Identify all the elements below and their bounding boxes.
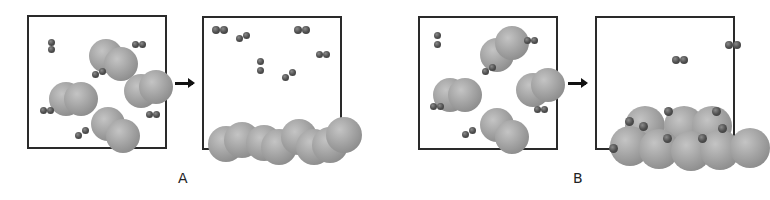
small-atom bbox=[48, 39, 55, 46]
large-atom bbox=[495, 26, 529, 60]
small-atom bbox=[469, 127, 476, 134]
large-atom bbox=[64, 82, 98, 116]
small-atom bbox=[698, 134, 707, 143]
small-atom bbox=[92, 71, 99, 78]
small-atom bbox=[48, 46, 55, 53]
large-atom bbox=[495, 120, 529, 154]
large-atom bbox=[326, 117, 362, 153]
small-atom bbox=[434, 32, 441, 39]
large-atom bbox=[730, 128, 770, 168]
small-atom bbox=[132, 41, 139, 48]
panel-A-before bbox=[27, 15, 167, 149]
small-atom bbox=[534, 106, 541, 113]
small-atom bbox=[434, 41, 441, 48]
large-atom bbox=[106, 119, 140, 153]
small-atom bbox=[289, 69, 296, 76]
small-atom bbox=[663, 134, 672, 143]
small-atom bbox=[733, 41, 741, 49]
small-atom bbox=[680, 56, 688, 64]
panel-B-after bbox=[595, 16, 735, 150]
small-atom bbox=[40, 107, 47, 114]
small-atom bbox=[212, 26, 220, 34]
small-atom bbox=[294, 26, 302, 34]
small-atom bbox=[541, 106, 548, 113]
small-atom bbox=[430, 103, 437, 110]
small-atom bbox=[139, 41, 146, 48]
panel-B-before bbox=[418, 16, 558, 150]
small-atom bbox=[489, 64, 496, 71]
small-atom bbox=[323, 51, 330, 58]
small-atom bbox=[482, 68, 489, 75]
small-atom bbox=[524, 37, 531, 44]
small-atom bbox=[257, 58, 264, 65]
small-atom bbox=[639, 122, 648, 131]
small-atom bbox=[531, 37, 538, 44]
small-atom bbox=[243, 32, 250, 39]
small-atom bbox=[99, 68, 106, 75]
scenario-label-B: B bbox=[573, 170, 583, 186]
small-atom bbox=[718, 124, 727, 133]
small-atom bbox=[664, 107, 673, 116]
small-atom bbox=[220, 26, 228, 34]
small-atom bbox=[609, 144, 618, 153]
small-atom bbox=[153, 111, 160, 118]
small-atom bbox=[625, 117, 634, 126]
small-atom bbox=[672, 56, 680, 64]
small-atom bbox=[725, 41, 733, 49]
reaction-arrow-icon bbox=[175, 82, 193, 85]
small-atom bbox=[712, 107, 721, 116]
small-atom bbox=[146, 111, 153, 118]
large-atom bbox=[448, 78, 482, 112]
small-atom bbox=[282, 74, 289, 81]
small-atom bbox=[257, 67, 264, 74]
large-atom bbox=[139, 70, 173, 104]
large-atom bbox=[531, 68, 565, 102]
small-atom bbox=[82, 127, 89, 134]
panel-A-after bbox=[202, 16, 342, 150]
small-atom bbox=[47, 107, 54, 114]
small-atom bbox=[302, 26, 310, 34]
small-atom bbox=[462, 131, 469, 138]
reaction-arrow-icon bbox=[568, 82, 586, 85]
small-atom bbox=[75, 132, 82, 139]
scenario-label-A: A bbox=[178, 170, 188, 186]
small-atom bbox=[437, 103, 444, 110]
small-atom bbox=[316, 51, 323, 58]
small-atom bbox=[236, 35, 243, 42]
